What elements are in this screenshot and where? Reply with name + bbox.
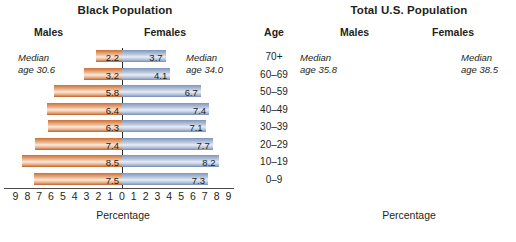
- bar-female: 7.3: [122, 173, 208, 185]
- bar-female: 7.1: [122, 120, 206, 132]
- median-male-total-line2: age 35.8: [300, 64, 337, 76]
- females-label-black: Females: [144, 26, 186, 38]
- age-group-label: 70+: [246, 48, 302, 66]
- bar-value-female: 6.7: [185, 86, 198, 99]
- x-tick-label: 1: [105, 190, 116, 202]
- bar-male: 7.5: [34, 173, 122, 185]
- age-group-label: 10–19: [246, 153, 302, 171]
- plot-area-black: 2.23.73.24.15.86.76.47.46.37.17.47.78.58…: [16, 48, 228, 188]
- bar-value-male: 6.4: [106, 104, 119, 117]
- x-tick-label: 3: [81, 190, 92, 202]
- x-tick-label: 1: [128, 190, 139, 202]
- bar-value-female: 7.1: [189, 121, 202, 134]
- bar-female: 4.1: [122, 68, 170, 80]
- baseline-black: [4, 188, 234, 189]
- age-group-label: 40–49: [246, 101, 302, 119]
- x-tick-label: 6: [45, 190, 56, 202]
- bar-value-male: 2.2: [106, 51, 119, 64]
- bar-value-female: 8.2: [202, 156, 215, 169]
- x-tick-label: 9: [223, 190, 234, 202]
- chart-title-black: Black Population: [2, 4, 248, 16]
- pyramid-row: 6.37.1: [16, 118, 228, 136]
- pyramid-row: 6.47.4: [16, 101, 228, 119]
- age-group-label: 20–29: [246, 136, 302, 154]
- x-tick-label: 4: [164, 190, 175, 202]
- x-tick-label: 8: [22, 190, 33, 202]
- pyramid-row: 3.24.1: [16, 66, 228, 84]
- bar-value-male: 5.8: [106, 86, 119, 99]
- bar-value-male: 3.2: [106, 69, 119, 82]
- pyramid-row: 7.47.7: [16, 136, 228, 154]
- x-tick-label: 6: [187, 190, 198, 202]
- x-tick-label: 9: [10, 190, 21, 202]
- chart-title-total: Total U.S. Population: [302, 4, 516, 16]
- bar-female: 7.4: [122, 103, 209, 115]
- x-tick-label: 0: [116, 190, 127, 202]
- bar-male: 7.4: [35, 138, 122, 150]
- x-tick-label: 4: [69, 190, 80, 202]
- age-axis-column: Age 70+60–6950–5940–4930–3920–2910–190–9: [246, 0, 302, 242]
- bar-female: 3.7: [122, 50, 166, 62]
- bar-value-female: 7.4: [193, 104, 206, 117]
- chart-black-population: Black Population Males Females Median ag…: [0, 0, 246, 242]
- x-tick-label: 5: [176, 190, 187, 202]
- age-heading: Age: [246, 26, 302, 38]
- bar-value-female: 3.7: [149, 51, 162, 64]
- population-pyramid-figure: Black Population Males Females Median ag…: [0, 0, 516, 242]
- males-label-black: Males: [34, 26, 63, 38]
- age-group-label: 0–9: [246, 171, 302, 189]
- age-group-label: 30–39: [246, 118, 302, 136]
- bar-male: 5.8: [54, 85, 122, 97]
- x-tick-label: 2: [140, 190, 151, 202]
- x-tick-label: 7: [199, 190, 210, 202]
- age-group-label: 60–69: [246, 66, 302, 84]
- pyramid-row: 2.23.7: [16, 48, 228, 66]
- x-axis-ticks-black: 9876543210123456789: [10, 190, 234, 206]
- pyramid-row: 5.86.7: [16, 83, 228, 101]
- bar-value-male: 8.5: [106, 156, 119, 169]
- x-axis-caption-total: Percentage: [302, 209, 516, 221]
- x-tick-label: 3: [152, 190, 163, 202]
- females-label-total: Females: [432, 26, 474, 38]
- x-axis-caption-black: Percentage: [0, 209, 246, 221]
- bar-value-male: 7.5: [106, 174, 119, 187]
- median-age-female-total: Median age 38.5: [461, 52, 498, 75]
- bar-female: 8.2: [122, 155, 219, 167]
- pyramid-row: 7.57.3: [16, 171, 228, 189]
- bar-value-female: 4.1: [154, 69, 167, 82]
- bar-male: 2.2: [96, 50, 122, 62]
- pyramid-row: 8.58.2: [16, 153, 228, 171]
- bar-female: 6.7: [122, 85, 201, 97]
- bar-value-male: 6.3: [106, 121, 119, 134]
- median-female-total-line1: Median: [461, 52, 498, 64]
- bar-value-female: 7.3: [192, 174, 205, 187]
- bar-male: 8.5: [22, 155, 122, 167]
- age-group-label: 50–59: [246, 83, 302, 101]
- bar-male: 6.4: [47, 103, 122, 115]
- bar-male: 6.3: [48, 120, 122, 132]
- median-age-male-total: Median age 35.8: [300, 52, 337, 75]
- x-tick-label: 5: [57, 190, 68, 202]
- chart-total-us-population: Total U.S. Population Males Females Medi…: [302, 0, 516, 242]
- bar-value-female: 7.7: [196, 139, 209, 152]
- median-female-total-line2: age 38.5: [461, 64, 498, 76]
- x-tick-label: 2: [93, 190, 104, 202]
- bar-value-male: 7.4: [106, 139, 119, 152]
- age-group-labels: 70+60–6950–5940–4930–3920–2910–190–9: [246, 48, 302, 188]
- bar-female: 7.7: [122, 138, 213, 150]
- males-label-total: Males: [340, 26, 369, 38]
- bar-male: 3.2: [84, 68, 122, 80]
- x-tick-label: 7: [34, 190, 45, 202]
- median-male-total-line1: Median: [300, 52, 337, 64]
- x-tick-label: 8: [211, 190, 222, 202]
